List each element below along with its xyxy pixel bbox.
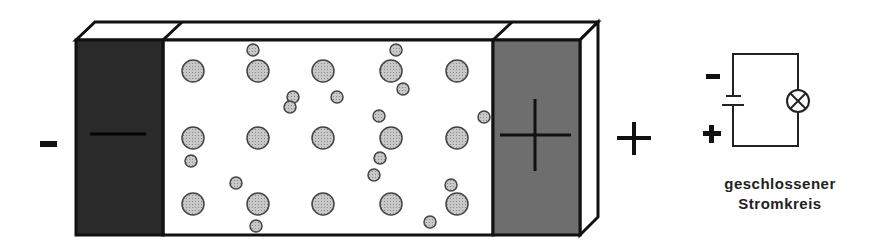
small-particle [445,179,457,191]
large-particle [380,60,402,82]
small-particle [368,169,380,181]
small-particle [331,91,343,103]
large-particle [247,193,269,215]
large-particle [312,193,334,215]
small-particle [374,152,386,164]
small-particle [397,83,409,95]
large-particle [312,127,334,149]
circuit-wire [733,105,798,146]
small-particle [185,155,197,167]
circuit-plus-icon [703,125,721,143]
large-particle [182,193,204,215]
circuit-minus-icon [706,74,720,79]
small-particle [424,216,436,228]
right-terminal-plus-icon [617,122,651,155]
small-particle [373,110,385,122]
large-particle [446,127,468,149]
large-particle [182,60,204,82]
large-particle [247,127,269,149]
large-particle [182,127,204,149]
caption-line-1: geschlossener [700,174,860,194]
large-particle [247,60,269,82]
large-particle [446,60,468,82]
lamp-icon [787,90,809,112]
cathode-electrode [76,40,163,235]
large-particle [380,127,402,149]
small-particle [247,44,259,56]
cell-side-face [580,22,598,235]
circuit-diagram [722,54,809,146]
small-particle [284,101,296,113]
circuit-caption: geschlossener Stromkreis [700,174,860,214]
small-particle [478,111,490,123]
large-particle [312,60,334,82]
caption-line-2: Stromkreis [700,194,860,214]
large-particle [446,193,468,215]
small-particle [230,177,242,189]
circuit-wire [733,54,798,96]
anode-electrode [493,40,580,235]
small-particle [390,44,402,56]
large-particle [380,193,402,215]
cell-top-face [76,22,598,40]
small-particle [250,220,262,232]
left-terminal-minus-icon [40,141,57,147]
